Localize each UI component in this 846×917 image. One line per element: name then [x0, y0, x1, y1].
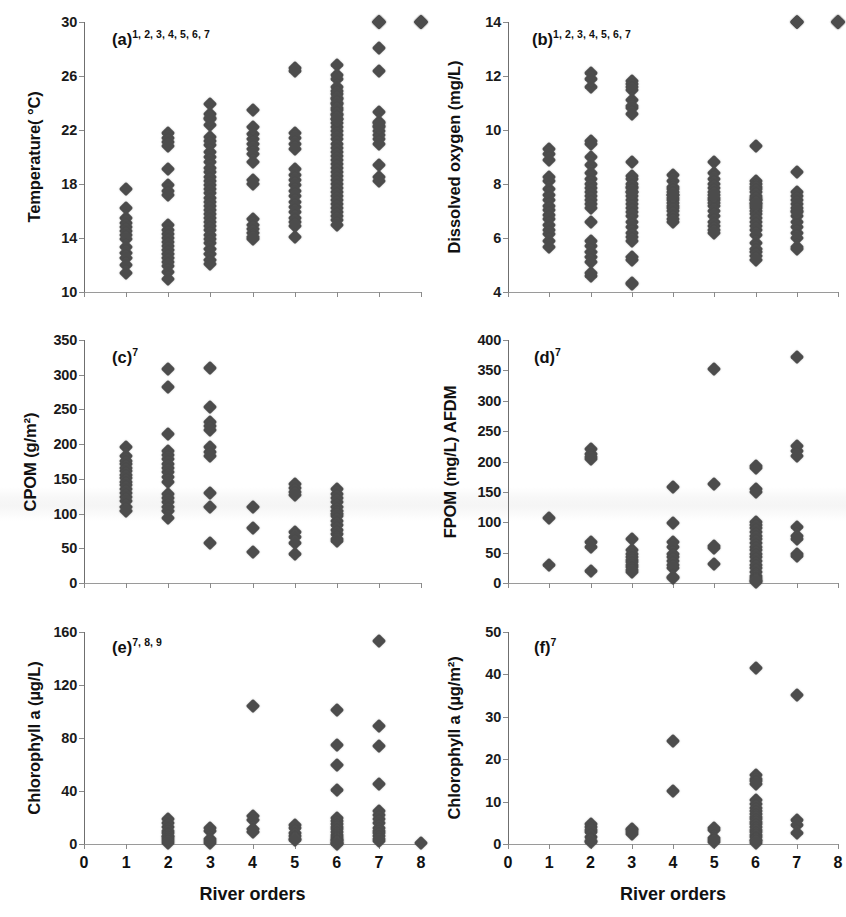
y-tick-f	[503, 674, 508, 675]
panel-label-superscript: 7, 8, 9	[132, 636, 162, 648]
y-tick-label-e: 160	[53, 624, 77, 640]
x-tick-f	[838, 844, 839, 849]
x-tick-b	[756, 292, 757, 297]
y-tick-d	[503, 431, 508, 432]
y-axis-line-a	[84, 22, 85, 292]
y-tick-label-f: 50	[485, 624, 501, 640]
y-tick-label-f: 20	[485, 751, 501, 767]
y-tick-label-e: 40	[61, 783, 77, 799]
y-tick-label-b: 4	[493, 284, 501, 300]
data-point	[790, 688, 804, 702]
x-tick-e	[126, 844, 127, 849]
y-tick-label-c: 200	[53, 436, 77, 452]
y-tick-label-c: 300	[53, 367, 77, 383]
x-tick-b	[549, 292, 550, 297]
data-point	[330, 783, 344, 797]
y-tick-label-c: 150	[53, 471, 77, 487]
x-axis-title-f: River orders	[508, 884, 838, 905]
y-tick-label-c: 0	[69, 575, 77, 591]
data-point	[414, 836, 428, 850]
x-tick-a	[295, 292, 296, 297]
panel-label-e: (e)7, 8, 9	[112, 636, 162, 657]
y-tick-label-f: 30	[485, 709, 501, 725]
y-tick-c	[79, 409, 84, 410]
y-tick-b	[503, 238, 508, 239]
y-tick-label-c: 50	[61, 540, 77, 556]
x-tick-c	[379, 583, 380, 588]
y-tick-label-d: 350	[477, 362, 501, 378]
y-tick-d	[503, 370, 508, 371]
data-point	[245, 545, 259, 559]
x-tick-f	[673, 844, 674, 849]
x-tick-label-e: 4	[248, 854, 257, 872]
plot-area-d: 050100150200250300350400	[508, 340, 838, 583]
y-tick-label-d: 400	[477, 332, 501, 348]
data-point	[707, 362, 721, 376]
data-point	[372, 777, 386, 791]
y-tick-b	[503, 184, 508, 185]
x-tick-label-e: 8	[417, 854, 426, 872]
x-tick-f	[549, 844, 550, 849]
x-tick-a	[421, 292, 422, 297]
x-tick-d	[591, 583, 592, 588]
figure-root: 101418222630(a)1, 2, 3, 4, 5, 6, 7Temper…	[0, 0, 846, 917]
data-point	[666, 516, 680, 530]
data-point	[372, 634, 386, 648]
data-point	[119, 182, 133, 196]
data-point	[748, 661, 762, 675]
y-tick-label-f: 0	[493, 836, 501, 852]
x-tick-label-f: 2	[586, 854, 595, 872]
data-point	[372, 41, 386, 55]
y-tick-b	[503, 130, 508, 131]
data-point	[372, 64, 386, 78]
panel-f: 01020304050012345678(f)7Chlorophyll a (µ…	[508, 632, 838, 844]
x-tick-a	[126, 292, 127, 297]
y-axis-title-a: Temperature( °C)	[25, 91, 44, 222]
y-tick-d	[503, 492, 508, 493]
x-tick-d	[632, 583, 633, 588]
x-tick-b	[632, 292, 633, 297]
data-point	[414, 15, 428, 29]
x-tick-f	[797, 844, 798, 849]
y-tick-label-b: 12	[485, 68, 501, 84]
x-tick-b	[508, 292, 509, 297]
x-tick-c	[84, 583, 85, 588]
data-point	[666, 480, 680, 494]
x-tick-d	[508, 583, 509, 588]
x-axis-title-e: River orders	[84, 884, 421, 905]
x-tick-d	[549, 583, 550, 588]
y-tick-label-a: 22	[61, 122, 77, 138]
data-point	[372, 15, 386, 29]
data-point	[831, 15, 845, 29]
y-tick-a	[79, 130, 84, 131]
y-tick-c	[79, 479, 84, 480]
panel-label-a: (a)1, 2, 3, 4, 5, 6, 7	[112, 28, 210, 49]
data-point	[245, 155, 259, 169]
y-tick-label-d: 250	[477, 423, 501, 439]
x-tick-label-e: 6	[332, 854, 341, 872]
x-tick-label-e: 1	[122, 854, 131, 872]
panel-label-superscript: 7	[550, 636, 556, 648]
x-tick-label-f: 8	[834, 854, 843, 872]
y-tick-e	[79, 632, 84, 633]
data-point	[542, 511, 556, 525]
data-point	[666, 784, 680, 798]
data-point	[372, 719, 386, 733]
y-tick-label-a: 14	[61, 230, 77, 246]
x-tick-c	[126, 583, 127, 588]
x-tick-c	[168, 583, 169, 588]
y-tick-d	[503, 340, 508, 341]
plot-area-f: 01020304050012345678	[508, 632, 838, 844]
x-tick-label-e: 7	[374, 854, 383, 872]
x-tick-e	[253, 844, 254, 849]
panel-label-d: (d)7	[534, 346, 561, 367]
panel-label-superscript: 1, 2, 3, 4, 5, 6, 7	[553, 28, 631, 40]
y-tick-f	[503, 802, 508, 803]
x-tick-c	[421, 583, 422, 588]
y-tick-label-d: 200	[477, 454, 501, 470]
data-point	[790, 165, 804, 179]
x-tick-c	[295, 583, 296, 588]
y-tick-c	[79, 548, 84, 549]
y-axis-title-b: Dissolved oxygen (mg/L)	[445, 61, 464, 254]
panel-label-text: (b)	[532, 30, 553, 48]
